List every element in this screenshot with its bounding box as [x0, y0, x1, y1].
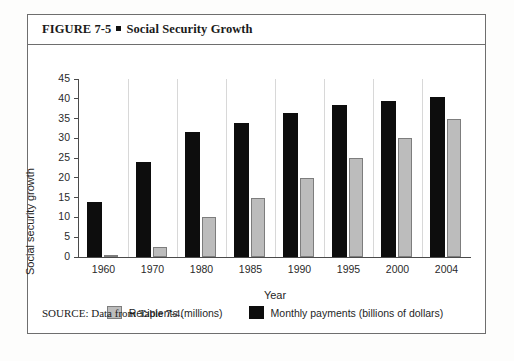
- bar-group: 1960: [79, 79, 128, 257]
- bar-monthly-payments[interactable]: [185, 132, 200, 257]
- bar-monthly-payments[interactable]: [332, 105, 347, 257]
- source-note: SOURCE: Data from Table 7-4.: [42, 307, 183, 319]
- bar-group: 1990: [275, 79, 324, 257]
- bar-monthly-payments[interactable]: [381, 101, 396, 257]
- x-axis-tick-label: 1980: [177, 263, 226, 275]
- y-axis-tick-label: 5: [34, 230, 70, 243]
- group-divider: [275, 79, 276, 257]
- group-divider: [177, 79, 178, 257]
- x-axis-tick-label: 1970: [128, 263, 177, 275]
- bar-monthly-payments[interactable]: [283, 113, 298, 257]
- y-axis-tick-label: 45: [34, 72, 70, 85]
- figure-title: FIGURE 7-5Social Security Growth: [42, 22, 253, 37]
- y-axis-tick-label: 20: [34, 171, 70, 184]
- bar-group: 1970: [128, 79, 177, 257]
- bar-monthly-payments[interactable]: [87, 202, 102, 257]
- legend-item: Monthly payments (billions of dollars): [249, 306, 444, 319]
- x-axis-tick-label: 1960: [79, 263, 128, 275]
- group-divider: [422, 79, 423, 257]
- bar-group: 2000: [373, 79, 422, 257]
- bar-recipients[interactable]: [251, 198, 266, 257]
- bar-recipients[interactable]: [202, 217, 217, 257]
- y-axis-tick-label: 35: [34, 112, 70, 125]
- figure-title-bar: FIGURE 7-5Social Security Growth: [28, 15, 485, 45]
- y-axis-tick-label: 0: [34, 250, 70, 263]
- bar-recipients[interactable]: [300, 178, 315, 257]
- x-axis-tick-label: 1995: [324, 263, 373, 275]
- group-divider: [226, 79, 227, 257]
- legend-swatch-payments: [249, 306, 264, 319]
- bar-recipients[interactable]: [447, 119, 462, 257]
- bar-recipients[interactable]: [398, 138, 413, 257]
- y-axis-tick-label: 15: [34, 191, 70, 204]
- bar-monthly-payments[interactable]: [430, 97, 445, 257]
- x-axis-tick-label: 2000: [373, 263, 422, 275]
- y-axis-tick-label: 40: [34, 92, 70, 105]
- bar-monthly-payments[interactable]: [234, 123, 249, 257]
- bar-monthly-payments[interactable]: [136, 162, 151, 257]
- figure-label: FIGURE 7-5: [42, 22, 111, 36]
- y-axis-tick-label: 10: [34, 210, 70, 223]
- x-axis-line: [79, 257, 471, 258]
- bar-recipients[interactable]: [153, 247, 168, 257]
- x-axis-tick-label: 1985: [226, 263, 275, 275]
- bar-group: 1995: [324, 79, 373, 257]
- bar-recipients[interactable]: [104, 255, 119, 257]
- y-axis-tick-label: 30: [34, 131, 70, 144]
- figure-title-text: Social Security Growth: [126, 22, 252, 36]
- square-bullet-icon: [116, 26, 121, 31]
- group-divider: [373, 79, 374, 257]
- y-axis-tick-label: 25: [34, 151, 70, 164]
- legend-label: Monthly payments (billions of dollars): [271, 307, 444, 319]
- group-divider: [128, 79, 129, 257]
- x-axis-tick-label: 2004: [422, 263, 471, 275]
- x-axis-title: Year: [79, 289, 471, 301]
- bar-group: 1985: [226, 79, 275, 257]
- bar-recipients[interactable]: [349, 158, 364, 257]
- bar-group: 1980: [177, 79, 226, 257]
- figure-box: FIGURE 7-5Social Security Growth Social …: [27, 14, 486, 334]
- group-divider: [324, 79, 325, 257]
- x-axis-tick-label: 1990: [275, 263, 324, 275]
- bar-group: 2004: [422, 79, 471, 257]
- plot-area: 051015202530354045 196019701980198519901…: [79, 79, 471, 257]
